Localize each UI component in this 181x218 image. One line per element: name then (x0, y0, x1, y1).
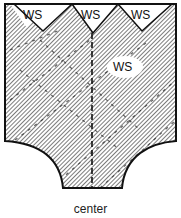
ws-label-top-right: WS (131, 9, 150, 21)
ws-label-top-left: WS (23, 9, 42, 21)
ws-label-center: WS (113, 61, 132, 73)
caption-center: center (0, 202, 181, 216)
ws-label-top-middle: WS (81, 9, 100, 21)
pattern-diagram (0, 0, 181, 218)
pattern-piece (5, 4, 176, 188)
